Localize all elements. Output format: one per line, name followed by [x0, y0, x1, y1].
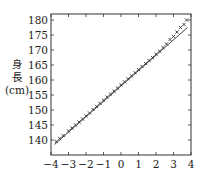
y-tick-label: 140 — [28, 134, 48, 146]
y-tick-label: 150 — [28, 104, 48, 116]
y-axis-label: 身 長 (cm) — [0, 58, 34, 97]
y-axis-label-line-3: (cm) — [0, 84, 34, 97]
x-tick-label: −1 — [96, 158, 111, 170]
y-axis-label-line-1: 身 — [0, 58, 34, 71]
data-point-marker — [179, 26, 182, 29]
data-point-marker — [182, 23, 185, 26]
x-tick-label: 4 — [188, 158, 195, 170]
y-tick-label: 170 — [28, 44, 48, 56]
x-tick-label: 1 — [135, 158, 142, 170]
x-tick-label: −4 — [43, 158, 59, 170]
data-point-marker — [172, 35, 175, 38]
data-point-marker — [168, 38, 171, 41]
x-tick-label: −2 — [78, 158, 93, 170]
x-tick-label: 3 — [170, 158, 177, 170]
x-tick-label: 0 — [118, 158, 125, 170]
y-tick-label: 180 — [28, 14, 48, 26]
data-points — [55, 18, 189, 143]
y-axis-label-line-2: 長 — [0, 71, 34, 84]
x-tick-label: 2 — [153, 158, 160, 170]
x-axis: −4−3−2−101234 — [43, 14, 194, 170]
y-tick-label: 145 — [28, 119, 48, 131]
data-point-marker — [185, 18, 188, 21]
x-tick-label: −3 — [61, 158, 76, 170]
data-point-marker — [165, 42, 168, 45]
y-axis: 140145150155160165170175180 — [28, 14, 191, 146]
data-point-marker — [175, 30, 178, 33]
y-tick-label: 175 — [28, 29, 48, 41]
